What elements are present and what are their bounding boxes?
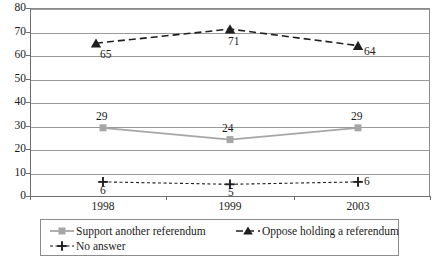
y-tick-mark-30: [26, 126, 30, 127]
triangle-marker-icon: [235, 224, 261, 238]
data-label-no-answer-2003: 6: [364, 176, 370, 188]
legend-item-no-answer[interactable]: No answer: [49, 238, 126, 254]
x-tick-mark-end: [430, 196, 431, 200]
data-label-support-1999: 24: [222, 123, 234, 135]
legend-row-2: No answer: [41, 238, 398, 254]
x-tick-mark-2: [294, 196, 295, 200]
y-axis: 80 70 60 50 40 30 20 10 0: [0, 0, 26, 262]
y-tick-label-40: 40: [0, 96, 26, 108]
y-tick-label-20: 20: [0, 143, 26, 155]
y-tick-mark-10: [26, 173, 30, 174]
y-tick-mark-50: [26, 79, 30, 80]
y-tick-mark-40: [26, 102, 30, 103]
plus-marker-icon: [49, 239, 75, 253]
y-tick-label-80: 80: [0, 2, 26, 14]
gridline-40: [31, 103, 429, 104]
data-label-no-answer-1999: 5: [228, 187, 234, 199]
data-label-oppose-1998: 65: [100, 49, 112, 61]
x-tick-label-1998: 1998: [68, 200, 138, 213]
legend: Support another referendum Oppose holdin…: [40, 219, 399, 256]
x-tick-label-1999: 1999: [195, 200, 265, 213]
data-label-oppose-1999: 71: [228, 36, 240, 48]
y-tick-label-30: 30: [0, 120, 26, 132]
data-label-support-1998: 29: [96, 111, 108, 123]
gridline-70: [31, 33, 429, 34]
y-tick-label-50: 50: [0, 73, 26, 85]
data-label-oppose-2003: 64: [364, 46, 376, 58]
data-label-support-2003: 29: [351, 111, 363, 123]
legend-row-1: Support another referendum Oppose holdin…: [41, 223, 398, 239]
y-tick-label-10: 10: [0, 167, 26, 179]
y-tick-mark-60: [26, 55, 30, 56]
legend-item-support[interactable]: Support another referendum: [49, 223, 206, 239]
line-chart: 80 70 60 50 40 30 20 10 0 1998 1999 2003: [0, 0, 439, 262]
x-tick-mark-start: [30, 196, 31, 200]
legend-item-oppose[interactable]: Oppose holding a referendum: [235, 223, 399, 239]
y-tick-mark-80: [26, 8, 30, 9]
y-tick-mark-70: [26, 32, 30, 33]
y-tick-label-70: 70: [0, 26, 26, 38]
legend-label-oppose: Oppose holding a referendum: [262, 224, 399, 238]
gridline-50: [31, 80, 429, 81]
legend-label-support: Support another referendum: [76, 224, 206, 238]
gridline-80: [31, 9, 429, 10]
legend-label-no-answer: No answer: [76, 239, 126, 253]
data-label-no-answer-1998: 6: [100, 185, 106, 197]
x-tick-label-2003: 2003: [323, 200, 393, 213]
y-tick-label-0: 0: [0, 190, 26, 202]
y-tick-mark-20: [26, 149, 30, 150]
gridline-20: [31, 150, 429, 151]
y-tick-label-60: 60: [0, 49, 26, 61]
square-marker-icon: [49, 224, 75, 238]
x-tick-mark-1: [166, 196, 167, 200]
